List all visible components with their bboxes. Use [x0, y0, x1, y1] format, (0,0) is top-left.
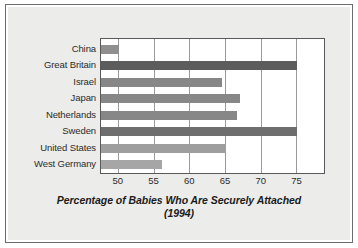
category-label: China [18, 40, 96, 57]
bar-row [101, 91, 324, 108]
bar-row [101, 140, 324, 157]
bar [101, 78, 222, 87]
category-label: Japan [18, 90, 96, 107]
category-label: Netherlands [18, 106, 96, 123]
bar-row [101, 74, 324, 91]
bar-series [101, 41, 324, 173]
bar-row [101, 58, 324, 75]
value-axis-tick-labels: 505560657075 [100, 176, 325, 190]
value-tick-label: 75 [291, 176, 302, 186]
category-axis-labels: ChinaGreat BritainIsraelJapanNetherlands… [18, 40, 96, 172]
chart-figure: ChinaGreat BritainIsraelJapanNetherlands… [0, 0, 358, 248]
value-tick-label: 50 [113, 176, 124, 186]
value-tick-label: 60 [184, 176, 195, 186]
bar [101, 160, 162, 169]
category-label: United States [18, 139, 96, 156]
category-label: Great Britain [18, 57, 96, 74]
category-label: West Germany [18, 156, 96, 173]
category-label: Sweden [18, 123, 96, 140]
value-tick-label: 65 [220, 176, 231, 186]
bar [101, 61, 297, 70]
bar-row [101, 124, 324, 141]
bar [101, 127, 297, 136]
plot-area [100, 38, 325, 174]
bar-row [101, 41, 324, 58]
chart-title-line2: (1994) [24, 207, 334, 220]
value-tick-label: 70 [255, 176, 266, 186]
bar-row [101, 107, 324, 124]
bar [101, 144, 226, 153]
chart-title: Percentage of Babies Who Are Securely At… [24, 194, 334, 220]
category-label: Israel [18, 73, 96, 90]
chart-title-line1: Percentage of Babies Who Are Securely At… [57, 194, 301, 206]
value-tick-label: 55 [148, 176, 159, 186]
bar [101, 111, 237, 120]
bar [101, 94, 240, 103]
bar [101, 45, 119, 54]
bar-row [101, 157, 324, 174]
